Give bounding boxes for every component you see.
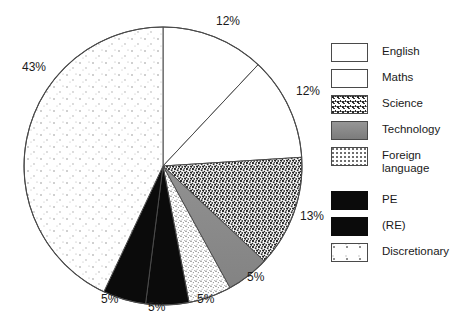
legend-item-label: PE: [382, 190, 397, 206]
legend-item-label: Science: [382, 94, 423, 110]
legend-swatch-discretionary: [331, 243, 368, 262]
legend-swatch-foreign-language: [331, 147, 368, 166]
legend-item[interactable]: Science: [331, 94, 449, 120]
legend-swatch-pe: [331, 191, 368, 210]
pie-chart-figure: 12%12%13%5%5%5%5%43% EnglishMathsScience…: [0, 0, 450, 331]
legend-swatch-maths: [331, 69, 368, 88]
legend-item[interactable]: (RE): [331, 216, 449, 242]
pie-percent-label: 5%: [197, 292, 214, 306]
pie-slices: [24, 27, 302, 305]
pie-percent-label: 43%: [22, 60, 46, 74]
legend-item-label: Foreign language: [382, 146, 429, 175]
legend-item[interactable]: Foreign language: [331, 146, 449, 182]
legend-swatch-technology: [331, 121, 368, 140]
pie-percent-label: 5%: [148, 300, 165, 314]
legend-item[interactable]: Technology: [331, 120, 449, 146]
legend-item[interactable]: Maths: [331, 68, 449, 94]
legend-swatch-re: [331, 217, 368, 236]
legend-item-label: English: [382, 42, 420, 58]
legend-item-label: Maths: [382, 68, 413, 84]
pie-percent-label: 12%: [296, 84, 320, 98]
legend-item-label: Technology: [382, 120, 440, 136]
legend-item-label: (RE): [382, 216, 406, 232]
legend-item-label: Discretionary: [382, 242, 449, 258]
pie-percent-label: 5%: [101, 292, 118, 306]
legend-item[interactable]: English: [331, 42, 449, 68]
legend-swatch-science: [331, 95, 368, 114]
pie-percent-label: 5%: [247, 270, 264, 284]
legend-item[interactable]: Discretionary: [331, 242, 449, 268]
legend-swatch-english: [331, 43, 368, 62]
pie-percent-label: 13%: [300, 209, 324, 223]
chart-legend: EnglishMathsScienceTechnologyForeign lan…: [331, 42, 449, 268]
legend-item[interactable]: PE: [331, 190, 449, 216]
pie-percent-label: 12%: [216, 14, 240, 28]
